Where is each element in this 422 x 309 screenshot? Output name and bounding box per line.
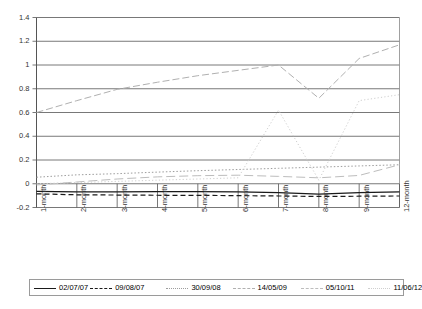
y-axis-tick-label: 0.6: [0, 109, 30, 117]
y-axis-tick-label: 0.4: [0, 132, 30, 140]
legend-item-2[interactable]: 30/09/08: [166, 284, 220, 292]
x-axis-tick-label: 2-month: [80, 184, 88, 212]
series-line-3: [37, 45, 400, 113]
legend-line-swatch-icon: [301, 284, 323, 292]
legend-item-label: 30/09/08: [191, 284, 220, 292]
series-line-2: [37, 165, 400, 177]
legend-item-5[interactable]: 11/06/12: [368, 284, 422, 292]
y-axis-tick-label: -0.2: [0, 204, 30, 212]
legend-item-label: 02/07/07: [59, 284, 88, 292]
legend-item-label: 14/05/09: [258, 284, 287, 292]
series-line-1: [37, 194, 400, 197]
legend-item-label: 09/08/07: [115, 284, 144, 292]
y-axis-tick-label: 1.2: [0, 37, 30, 45]
series-line-0: [37, 191, 400, 194]
x-axis-tick-label: 7-month: [282, 184, 290, 212]
legend-item-label: 11/06/12: [393, 284, 422, 292]
series-line-5: [37, 95, 400, 184]
legend-line-swatch-icon: [90, 284, 112, 292]
legend-item-0[interactable]: 02/07/07: [34, 284, 88, 292]
x-axis-tick-label: 5-month: [201, 184, 209, 212]
legend-item-1[interactable]: 09/08/07: [90, 284, 144, 292]
x-axis-tick-label: 12-month: [403, 180, 411, 212]
y-axis-tick-label: 1.4: [0, 14, 30, 22]
x-axis-tick-label: 6-month: [242, 184, 250, 212]
y-axis-tick-label: 0.8: [0, 85, 30, 93]
x-axis-tick-label: 8-month: [322, 184, 330, 212]
x-axis-tick-label: 1-month: [40, 184, 48, 212]
legend-line-swatch-icon: [34, 284, 56, 292]
y-axis-tick-label: 1: [0, 61, 30, 69]
legend-item-4[interactable]: 05/10/11: [301, 284, 355, 292]
y-axis-tick-label: 0: [0, 180, 30, 188]
chart-legend: 02/07/0709/08/0730/09/0814/05/0905/10/11…: [29, 279, 404, 296]
legend-line-swatch-icon: [166, 284, 188, 292]
y-axis-tick-label: 0.2: [0, 156, 30, 164]
x-axis-tick-label: 9-month: [363, 184, 371, 212]
x-axis-tick-label: 3-month: [121, 184, 129, 212]
legend-line-swatch-icon: [368, 284, 390, 292]
legend-line-swatch-icon: [233, 284, 255, 292]
legend-item-3[interactable]: 14/05/09: [233, 284, 287, 292]
legend-item-label: 05/10/11: [326, 284, 355, 292]
x-axis-tick-label: 4-month: [161, 184, 169, 212]
